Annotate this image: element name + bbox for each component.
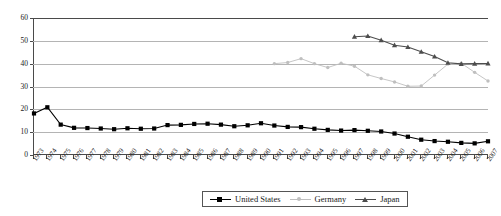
y-tick-label: 30 bbox=[4, 83, 28, 91]
plot-area bbox=[33, 18, 488, 155]
gridline bbox=[33, 18, 488, 19]
gridline bbox=[33, 132, 488, 133]
legend-triangle-marker-icon bbox=[355, 195, 376, 204]
chart-legend: United StatesGermanyJapan bbox=[202, 191, 408, 207]
gridline bbox=[33, 41, 488, 42]
legend-label: United States bbox=[235, 194, 281, 204]
legend-item-japan[interactable]: Japan bbox=[355, 194, 399, 204]
y-tick-label: 60 bbox=[4, 14, 28, 22]
y-tick-label: 20 bbox=[4, 105, 28, 113]
y-tick-label: 50 bbox=[4, 37, 28, 45]
gridline bbox=[33, 64, 488, 65]
gridline bbox=[33, 87, 488, 88]
y-tick-label: 40 bbox=[4, 60, 28, 68]
gridline bbox=[33, 109, 488, 110]
legend-item-united-states[interactable]: United States bbox=[210, 194, 281, 204]
legend-item-germany[interactable]: Germany bbox=[290, 194, 347, 204]
y-tick-label: 10 bbox=[4, 128, 28, 136]
legend-square-marker-icon bbox=[210, 195, 231, 204]
chart-container: 0102030405060 19731974197519761977197819… bbox=[0, 0, 501, 216]
legend-label: Japan bbox=[380, 194, 399, 204]
legend-circle-marker-icon bbox=[290, 195, 311, 204]
y-tick-label: 0 bbox=[4, 151, 28, 159]
legend-label: Germany bbox=[315, 194, 347, 204]
